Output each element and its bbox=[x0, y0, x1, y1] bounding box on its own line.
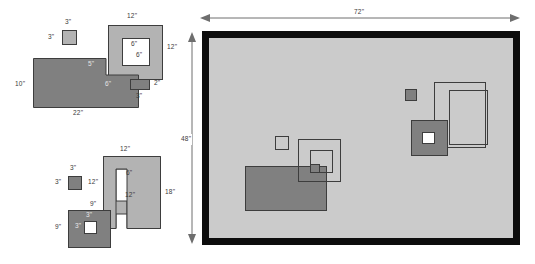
part-square-window-hole bbox=[84, 221, 97, 234]
label-c-shape-left-lower: 9" bbox=[90, 201, 96, 208]
label-small-square-bottom-height: 3" bbox=[55, 179, 61, 186]
placed-square-window-hole bbox=[422, 132, 435, 144]
label-c-shape-inner-mid: 12" bbox=[125, 192, 135, 199]
placed-dark-chip bbox=[405, 89, 417, 101]
label-l-shape-notch-top: 5" bbox=[88, 61, 94, 68]
placed-outline-rect-b bbox=[449, 90, 488, 145]
label-l-shape-notch-right: 6" bbox=[105, 81, 111, 88]
label-small-square-bottom-width: 3" bbox=[70, 165, 76, 172]
label-sheet-height: 48" bbox=[180, 134, 192, 145]
label-square-window-inner-left: 3" bbox=[75, 223, 81, 230]
label-small-square-top-height: 3" bbox=[48, 34, 54, 41]
label-c-shape-top: 12" bbox=[120, 146, 130, 153]
label-l-shape-left: 10" bbox=[15, 81, 25, 88]
label-framed-square-top: 12" bbox=[127, 13, 137, 20]
label-c-shape-left-upper: 12" bbox=[88, 179, 98, 186]
sheet-panel bbox=[202, 31, 520, 245]
label-small-bar-bottom: 3" bbox=[136, 93, 142, 100]
label-square-window-left: 9" bbox=[55, 224, 61, 231]
part-small-square-bottom bbox=[68, 176, 82, 190]
label-framed-square-right: 12" bbox=[167, 44, 177, 51]
label-sheet-width: 72" bbox=[350, 9, 368, 16]
label-square-window-inner-top: 3" bbox=[86, 212, 92, 219]
label-framed-square-inner-top: 6" bbox=[131, 41, 137, 48]
label-l-shape-bottom: 22" bbox=[73, 110, 83, 117]
placed-small-square bbox=[275, 136, 289, 150]
part-small-bar bbox=[130, 79, 150, 90]
label-small-square-top-width: 3" bbox=[65, 19, 71, 26]
part-small-square-top bbox=[62, 30, 77, 45]
part-l-shape bbox=[33, 58, 139, 108]
label-small-bar-right: 2" bbox=[154, 80, 160, 87]
drawing-canvas: 3" 3" 12" 12" 6" 6" 10" 22" 5" 6" 2" 3" … bbox=[0, 0, 535, 264]
label-c-shape-right: 18" bbox=[165, 189, 175, 196]
label-c-shape-inner-top: 6" bbox=[126, 170, 132, 177]
placed-nested-chip bbox=[310, 164, 320, 173]
